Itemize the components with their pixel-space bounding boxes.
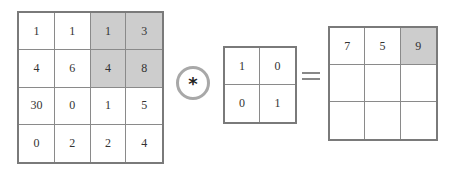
matrix-cell xyxy=(330,102,365,139)
matrix-cell: 1 xyxy=(91,88,127,125)
matrix-cell: 3 xyxy=(126,13,162,50)
input-matrix: 11134648300150224 xyxy=(17,11,164,164)
matrix-cell: 8 xyxy=(126,50,162,87)
matrix-cell: 1 xyxy=(91,13,127,50)
matrix-cell: 0 xyxy=(225,85,260,122)
matrix-cell: 2 xyxy=(91,125,127,162)
matrix-cell xyxy=(330,65,365,102)
output-matrix: 759 xyxy=(328,26,438,141)
matrix-cell: 30 xyxy=(19,88,55,125)
matrix-cell: 5 xyxy=(365,28,400,65)
asterisk-symbol: * xyxy=(188,73,197,94)
matrix-cell: 2 xyxy=(55,125,91,162)
matrix-cell: 4 xyxy=(19,50,55,87)
matrix-cell: 5 xyxy=(126,88,162,125)
matrix-cell: 0 xyxy=(19,125,55,162)
matrix-cell: 1 xyxy=(260,85,295,122)
matrix-cell: 0 xyxy=(55,88,91,125)
matrix-cell: 1 xyxy=(55,13,91,50)
matrix-cell: 9 xyxy=(401,28,436,65)
equals-sign-icon xyxy=(302,72,320,84)
kernel-matrix: 1001 xyxy=(223,46,297,124)
convolution-operator-icon: * xyxy=(176,66,210,100)
matrix-cell: 1 xyxy=(19,13,55,50)
matrix-cell: 4 xyxy=(91,50,127,87)
matrix-cell xyxy=(365,65,400,102)
matrix-cell: 0 xyxy=(260,48,295,85)
matrix-cell: 6 xyxy=(55,50,91,87)
matrix-cell xyxy=(365,102,400,139)
matrix-cell xyxy=(401,102,436,139)
matrix-cell xyxy=(401,65,436,102)
matrix-cell: 1 xyxy=(225,48,260,85)
matrix-cell: 7 xyxy=(330,28,365,65)
matrix-cell: 4 xyxy=(126,125,162,162)
